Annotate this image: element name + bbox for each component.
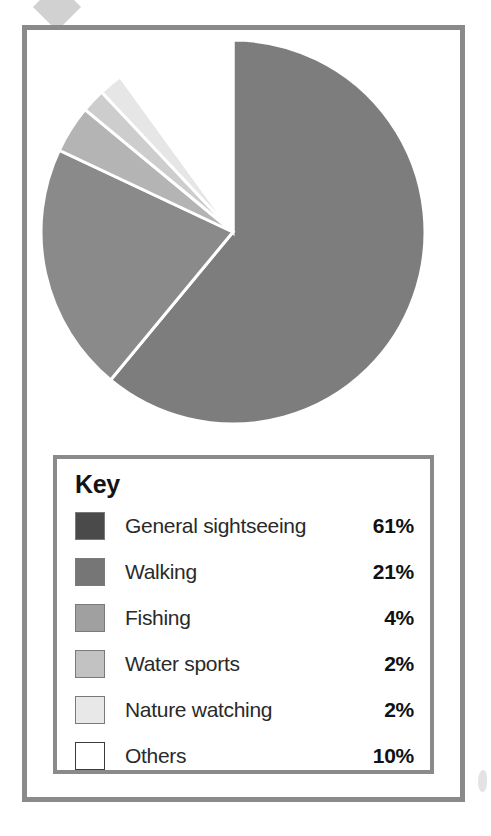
legend-value: 4%	[352, 606, 414, 630]
legend-label: Walking	[125, 560, 352, 584]
legend-row: Water sports2%	[73, 641, 414, 687]
legend-row: Walking21%	[73, 549, 414, 595]
pie-chart	[27, 30, 460, 430]
legend-label: Fishing	[125, 606, 352, 630]
legend-row: Others10%	[73, 733, 414, 779]
legend-key-box: Key General sightseeing61%Walking21%Fish…	[53, 455, 434, 774]
legend-value: 21%	[352, 560, 414, 584]
legend-title: Key	[75, 471, 414, 497]
legend-row: General sightseeing61%	[73, 503, 414, 549]
legend-value: 61%	[352, 514, 414, 538]
legend-label: Others	[125, 744, 352, 768]
legend-color-swatch	[75, 650, 105, 678]
legend-color-swatch	[75, 742, 105, 770]
legend-color-swatch	[75, 512, 105, 540]
legend-label: General sightseeing	[125, 514, 352, 538]
legend-row: Nature watching2%	[73, 687, 414, 733]
legend-label: Nature watching	[125, 698, 352, 722]
pie-slice-group	[41, 40, 425, 424]
legend-value: 2%	[352, 652, 414, 676]
legend-label: Water sports	[125, 652, 352, 676]
legend-value: 10%	[352, 744, 414, 768]
legend-value: 2%	[352, 698, 414, 722]
legend-rows: General sightseeing61%Walking21%Fishing4…	[73, 503, 414, 779]
legend-color-swatch	[75, 604, 105, 632]
legend-row: Fishing4%	[73, 595, 414, 641]
legend-color-swatch	[75, 558, 105, 586]
figure-frame: Key General sightseeing61%Walking21%Fish…	[22, 25, 465, 802]
pie-chart-svg	[37, 34, 437, 430]
legend-color-swatch	[75, 696, 105, 724]
scan-artifact-edge	[478, 770, 487, 792]
